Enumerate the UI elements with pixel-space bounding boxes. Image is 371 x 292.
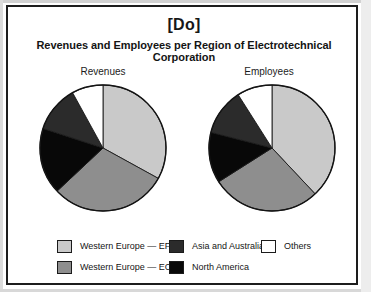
- legend-item-label: Western Europe — EFTA: [80, 242, 181, 251]
- legend-item-north-america[interactable]: North America: [169, 259, 249, 275]
- page-edge-left: [0, 0, 3, 292]
- legend-item-asia-and-australia[interactable]: Asia and Australia: [169, 238, 264, 254]
- legend-item-label: Asia and Australia: [192, 242, 264, 251]
- legend: Western Europe — EFTA Asia and Australia…: [8, 230, 360, 280]
- chart-caption-employees: Employees: [204, 66, 334, 77]
- legend-item-western-europe-efta[interactable]: Western Europe — EFTA: [57, 238, 181, 254]
- pie-chart-revenues-svg: [37, 82, 169, 214]
- medium-gray-swatch-icon: [57, 261, 72, 274]
- slide-frame: [Do] Revenues and Employees per Region o…: [6, 5, 358, 285]
- page-title: Revenues and Employees per Region of Ele…: [8, 39, 360, 63]
- do-tag: [Do]: [8, 16, 360, 34]
- page-edge-top: [0, 0, 371, 3]
- black-swatch-icon: [169, 261, 184, 274]
- page-edge-right: [361, 0, 371, 292]
- pie-chart-employees-svg: [206, 82, 338, 214]
- legend-item-label: Western Europe — EC: [80, 263, 171, 272]
- pie-chart-employees: [206, 82, 338, 214]
- light-gray-swatch-icon: [57, 240, 72, 253]
- legend-item-label: Others: [284, 242, 311, 251]
- legend-row: Western Europe — EC North America: [8, 259, 360, 280]
- dark-gray-swatch-icon: [169, 240, 184, 253]
- legend-row: Western Europe — EFTA Asia and Australia…: [8, 238, 360, 259]
- legend-item-western-europe-ec[interactable]: Western Europe — EC: [57, 259, 171, 275]
- figure-root: [Do] Revenues and Employees per Region o…: [0, 0, 371, 292]
- white-swatch-icon: [261, 240, 276, 253]
- chart-caption-revenues: Revenues: [38, 66, 168, 77]
- legend-item-others[interactable]: Others: [261, 238, 311, 254]
- pie-chart-revenues: [37, 82, 169, 214]
- legend-item-label: North America: [192, 263, 249, 272]
